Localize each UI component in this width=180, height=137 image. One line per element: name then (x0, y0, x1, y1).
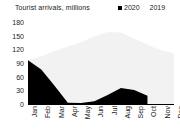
x-axis-tick: Dec (177, 106, 180, 118)
x-axis: JanFebMarAprMayJunJulAugSepOctNovDec (28, 106, 174, 136)
x-axis-line (28, 104, 174, 105)
tourist-arrivals-chart: Tourist arrivals, millions 2020 2019 180… (0, 0, 180, 137)
chart-title: Tourist arrivals, millions (15, 4, 90, 11)
y-axis-tick: 30 (16, 87, 24, 94)
y-axis-tick: 90 (16, 60, 24, 67)
x-axis-tick: Sep (137, 106, 144, 118)
x-axis-tick: Nov (164, 106, 171, 118)
y-axis-tick: 180 (12, 19, 24, 26)
legend-label-2020: 2020 (124, 4, 140, 11)
x-axis-tick: Jun (97, 106, 104, 117)
plot-svg (28, 22, 174, 104)
legend-entry-2020: 2020 (118, 4, 140, 11)
x-axis-tick: Jan (31, 106, 38, 117)
x-axis-tick: Aug (124, 106, 131, 118)
y-axis-tick: 120 (12, 46, 24, 53)
legend-label-2019: 2019 (150, 4, 166, 11)
legend-entry-2019: 2019 (144, 4, 166, 11)
x-axis-tick: Mar (58, 106, 65, 118)
x-axis-tick: Oct (150, 106, 157, 117)
chart-legend: 2020 2019 (118, 4, 165, 11)
x-axis-tick: Feb (44, 106, 51, 118)
x-axis-tick: Jul (111, 106, 118, 115)
y-axis: 1801501209060300 (0, 22, 26, 104)
x-axis-tick: Apr (71, 106, 78, 117)
plot-area (28, 22, 174, 104)
legend-swatch-2019-icon (144, 6, 148, 10)
y-axis-tick: 150 (12, 32, 24, 39)
y-axis-tick: 0 (20, 101, 24, 108)
x-axis-tick: May (84, 106, 91, 119)
y-axis-tick: 60 (16, 73, 24, 80)
legend-swatch-2020-icon (118, 6, 122, 10)
